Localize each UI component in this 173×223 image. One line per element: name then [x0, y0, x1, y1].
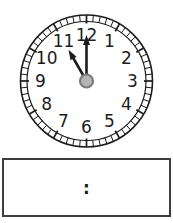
clock-worksheet: 123456789101112 :: [0, 0, 173, 223]
clock-numeral: 9: [35, 71, 46, 91]
clock-face: 123456789101112: [0, 0, 173, 155]
clock-numeral: 7: [58, 111, 69, 131]
time-answer-box[interactable]: :: [2, 158, 171, 217]
clock-numeral: 6: [81, 117, 92, 137]
minute-tick: [93, 140, 94, 146]
minute-tick: [146, 87, 152, 88]
clock-center-dot: [80, 75, 93, 88]
clock-numeral: 1: [104, 31, 115, 51]
analog-clock: 123456789101112: [0, 0, 173, 155]
minute-tick: [21, 87, 27, 88]
minute-answer-blank[interactable]: [90, 160, 130, 215]
clock-numeral: 2: [121, 48, 132, 68]
minute-tick: [21, 74, 27, 75]
hour-answer-blank[interactable]: [43, 160, 83, 215]
clock-numeral: 3: [127, 71, 138, 91]
clock-numeral: 4: [121, 94, 132, 114]
minute-tick: [146, 74, 152, 75]
clock-numeral: 11: [53, 31, 75, 51]
clock-numeral: 5: [104, 111, 115, 131]
colon-separator: :: [83, 180, 90, 197]
minute-tick: [80, 140, 81, 146]
minute-tick: [80, 15, 81, 21]
clock-numeral: 8: [41, 94, 52, 114]
minute-tick: [93, 15, 94, 21]
